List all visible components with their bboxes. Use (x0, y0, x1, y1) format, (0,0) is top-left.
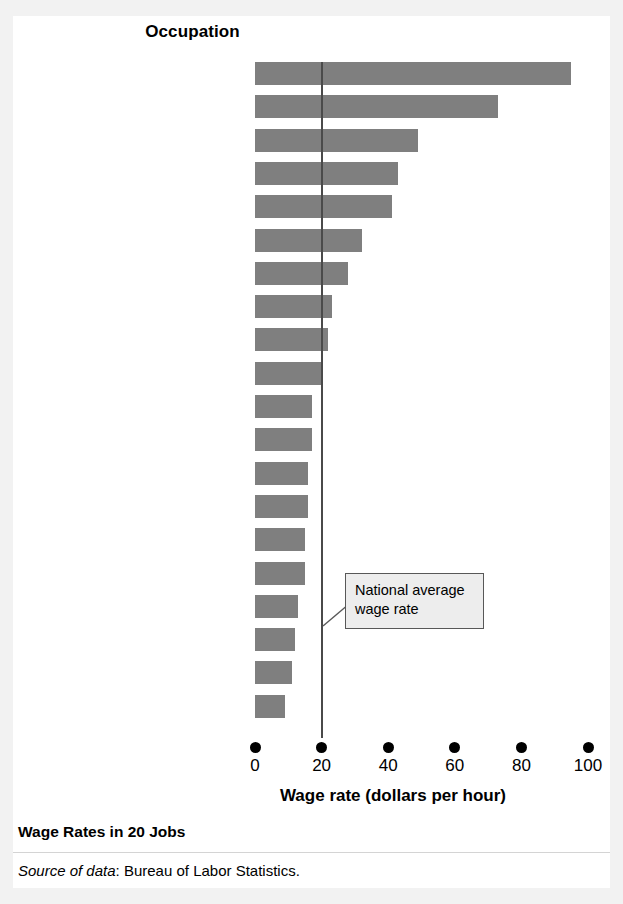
bar (255, 462, 308, 485)
bar (255, 528, 305, 551)
source-text: Bureau of Labor Statistics. (124, 862, 300, 879)
bar (255, 595, 298, 618)
x-axis-tick-label: 0 (225, 756, 285, 776)
bar (255, 162, 398, 185)
source-separator: : (116, 862, 124, 879)
bar (255, 628, 295, 651)
bar (255, 262, 348, 285)
x-axis-tick-label: 80 (491, 756, 551, 776)
source-note: Source of data: Bureau of Labor Statisti… (18, 862, 300, 879)
x-axis-tick-dot (250, 742, 261, 753)
national-average-wage-line (321, 62, 323, 738)
figure-caption: Wage Rates in 20 Jobs (18, 823, 185, 841)
bar (255, 395, 312, 418)
bar (255, 362, 322, 385)
bar (255, 229, 362, 252)
x-axis-tick-label: 40 (358, 756, 418, 776)
x-axis-title: Wage rate (dollars per hour) (213, 786, 573, 806)
source-divider (13, 852, 610, 853)
bar (255, 495, 308, 518)
national-average-callout: National average wage rate (345, 573, 484, 629)
source-label: Source of data (18, 862, 116, 879)
x-axis-tick-dot (383, 742, 394, 753)
x-axis-tick-label: 20 (292, 756, 352, 776)
bar (255, 428, 312, 451)
x-axis-tick-label: 100 (558, 756, 618, 776)
x-axis-tick-dot (516, 742, 527, 753)
bar (255, 562, 305, 585)
bar (255, 95, 498, 118)
x-axis-tick-dot (583, 742, 594, 753)
bar (255, 62, 571, 85)
bar (255, 195, 392, 218)
figure-page-background: Occupation SurgeonsDentistsAir traffic c… (0, 0, 623, 904)
bar (255, 695, 285, 718)
bar (255, 328, 328, 351)
bar (255, 661, 292, 684)
x-axis-tick-label: 60 (425, 756, 485, 776)
bar (255, 129, 418, 152)
